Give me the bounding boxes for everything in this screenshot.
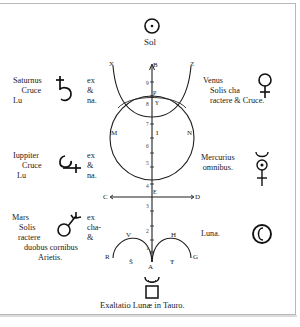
letter-i: I: [156, 129, 158, 137]
caption-exaltation: Exaltatio Lunæ in Tauro.: [100, 300, 185, 310]
mercury-text: Mercurius omnibus.: [201, 153, 235, 173]
axis-number-2: 2: [146, 228, 149, 234]
venus-icon: [256, 72, 274, 100]
taurus-exaltation-icon: [143, 276, 161, 300]
letter-x: X: [109, 60, 114, 68]
axis-number-8: 8: [146, 101, 149, 107]
moon-icon: [250, 222, 274, 246]
saturn-text-right: ex & na.: [87, 76, 97, 106]
saturn-icon: [54, 74, 74, 104]
letter-y: Y: [155, 99, 159, 107]
letter-m: M: [111, 129, 117, 137]
mars-text-right: ex cha- &: [87, 213, 101, 243]
letter-v: V: [126, 231, 131, 239]
axis-number-1: 1: [146, 245, 149, 251]
letter-n: N: [187, 129, 192, 137]
letter-c: C: [103, 193, 108, 201]
letter-r: R: [105, 253, 110, 261]
jupiter-text: Iuppiter Cruce Lu: [13, 151, 42, 181]
jupiter-text-right: ex & na.: [87, 151, 97, 181]
axis-number-6: 6: [146, 143, 149, 149]
letter-p: P: [153, 89, 156, 97]
letter-g: G: [193, 253, 198, 261]
letter-s: Š: [129, 258, 133, 266]
letter-t: Ŧ: [170, 258, 174, 266]
mercury-icon: [252, 150, 272, 190]
axis-number-3: 3: [146, 203, 149, 209]
axis-number-7: 7: [146, 121, 149, 127]
letter-h: H: [171, 231, 176, 239]
letter-z: Z: [190, 60, 194, 68]
axis-number-5: 5: [146, 160, 149, 166]
axis-number-4: 4: [146, 183, 149, 189]
axis-number-9: 9: [146, 80, 149, 86]
saturn-text: Saturnus Cruce Lu: [13, 76, 42, 106]
letter-d: D: [195, 193, 200, 201]
letter-b: B: [153, 61, 158, 69]
jupiter-icon: [57, 154, 83, 174]
sun-label: Sol: [144, 37, 156, 47]
letter-e: E: [153, 188, 157, 196]
sun-icon: [143, 17, 161, 35]
mars-icon: [56, 210, 84, 238]
letter-a: A: [148, 263, 153, 271]
moon-text: Luna.: [201, 229, 220, 239]
